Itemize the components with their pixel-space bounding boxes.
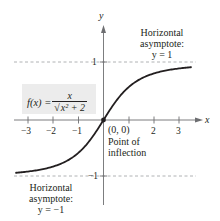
asymptote-top-line3: y = 1 <box>127 49 197 60</box>
y-axis-arrow-icon <box>101 25 106 33</box>
asymptote-bottom-label: Horizontal asymptote: y = −1 <box>16 182 86 215</box>
origin-label: (0, 0) <box>108 124 130 135</box>
formula-label: f(x) = x √x² + 2 <box>27 91 85 113</box>
y-axis-label: y <box>99 10 103 21</box>
x-tick-label: −1 <box>72 126 82 136</box>
inflection-line2: inflection <box>108 147 146 158</box>
x-tick-label: −2 <box>46 126 56 136</box>
inflection-label: Point of inflection <box>108 136 146 158</box>
formula-fraction: x √x² + 2 <box>54 91 85 113</box>
asymptote-bottom-line3: y = −1 <box>16 204 86 215</box>
inflection-point <box>101 118 106 123</box>
x-axis-arrow-icon <box>195 118 203 123</box>
x-axis-label: x <box>205 114 209 125</box>
formula-radicand: x² + 2 <box>60 101 85 113</box>
y-tick-label: −1 <box>88 171 98 181</box>
sqrt-icon: √ <box>54 102 60 113</box>
x-tick-label: 3 <box>176 126 181 136</box>
asymptote-bottom-line2: asymptote: <box>16 193 86 204</box>
x-tick-label: 2 <box>151 126 156 136</box>
asymptote-bottom-line1: Horizontal <box>16 182 86 193</box>
y-tick-label: 1 <box>92 57 97 67</box>
asymptote-top-line2: asymptote: <box>127 38 197 49</box>
asymptote-top-label: Horizontal asymptote: y = 1 <box>127 27 197 60</box>
formula-denominator: √x² + 2 <box>54 102 85 113</box>
x-tick-label: −3 <box>21 126 31 136</box>
inflection-line1: Point of <box>108 136 146 147</box>
asymptote-top-line1: Horizontal <box>127 27 197 38</box>
formula-lhs: f(x) = <box>27 97 51 108</box>
